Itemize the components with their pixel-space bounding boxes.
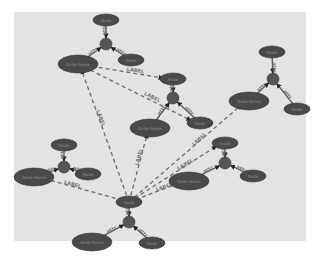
hub-node[interactable] [267, 73, 279, 85]
edge-label: LABEL [190, 131, 208, 147]
cluster-c6: attrattrattrNodeNodeNode Name [72, 196, 165, 251]
edge-label: attr [271, 62, 277, 73]
hub-node[interactable] [219, 157, 231, 169]
edge-label: LABEL [95, 109, 107, 128]
node-label: Node [147, 241, 158, 246]
node-label: Node Name [66, 62, 90, 67]
cluster-c1: attrattrattrNodeNodeNode Name [58, 14, 144, 73]
node-label: Node [83, 172, 94, 177]
node-label: Node [248, 174, 259, 179]
node-label: Node [195, 121, 206, 126]
cluster-c4: attrattrattrNodeNodeNode Name [14, 139, 101, 186]
edge-label: attr [282, 88, 294, 100]
node-label: Node [220, 141, 231, 146]
hub-node[interactable] [100, 38, 112, 50]
node-label: Node Name [138, 126, 162, 131]
node-c1-top[interactable]: Node [93, 14, 119, 26]
dashed-edge[interactable]: LABEL [129, 134, 147, 202]
edge-label: attr [183, 105, 195, 117]
edge-label: LABEL [143, 90, 162, 103]
edge-label: LABEL [133, 147, 144, 166]
node-c2-top[interactable]: Node [160, 73, 186, 85]
node-c6-top[interactable]: Node [116, 196, 142, 208]
dashed-edge[interactable]: LABEL [44, 179, 129, 202]
node-c4-top[interactable]: Node [51, 139, 77, 151]
node-c4-main[interactable]: Node Name [14, 168, 54, 186]
hub-node[interactable] [167, 92, 179, 104]
node-c1-right[interactable]: Node [118, 54, 144, 66]
node-label: Node Name [80, 240, 104, 245]
edge-label: attr [105, 224, 118, 235]
node-label: Node [168, 77, 179, 82]
node-label: Node Name [177, 179, 201, 184]
node-label: Node [126, 58, 137, 63]
node-label: Node Name [237, 99, 261, 104]
node-c1-main[interactable]: Node Name [58, 55, 98, 73]
edge-label: LABEL [64, 179, 83, 189]
graph-diagram[interactable]: LABELLABELLABELLABELLABELLABELLABELLABEL… [0, 0, 320, 264]
node-c5-top[interactable]: Node [212, 137, 238, 149]
node-label: Node [292, 107, 303, 112]
edge-label: attr [202, 164, 215, 174]
dashed-edge[interactable]: LABEL [81, 70, 129, 202]
cluster-c3: attrattrattrNodeNodeNode Name [229, 46, 310, 115]
hub-node[interactable] [58, 161, 70, 173]
node-c5-right[interactable]: Node [240, 170, 266, 182]
node-label: Node [59, 143, 70, 148]
node-label: Node [124, 200, 135, 205]
edge-label: attr [86, 45, 99, 56]
node-label: Node Name [22, 175, 46, 180]
node-c4-right[interactable]: Node [75, 168, 101, 180]
node-label: Node [267, 50, 278, 55]
edge-label: attr [255, 81, 267, 93]
node-c6-right[interactable]: Node [139, 237, 165, 249]
node-c3-right[interactable]: Node [284, 103, 310, 115]
edge-label: attr [156, 104, 168, 117]
node-c2-right[interactable]: Node [187, 117, 213, 129]
edge-label: attr [137, 227, 149, 239]
node-c6-main[interactable]: Node Name [72, 233, 112, 251]
node-c5-main[interactable]: Node Name [169, 172, 209, 190]
node-c2-main[interactable]: Node Name [130, 119, 170, 137]
node-label: Node [101, 18, 112, 23]
node-c3-main[interactable]: Node Name [229, 92, 269, 110]
cluster-c2: attrattrattrNodeNodeNode Name [130, 73, 213, 137]
node-c3-top[interactable]: Node [259, 46, 285, 58]
hub-node[interactable] [123, 216, 135, 228]
